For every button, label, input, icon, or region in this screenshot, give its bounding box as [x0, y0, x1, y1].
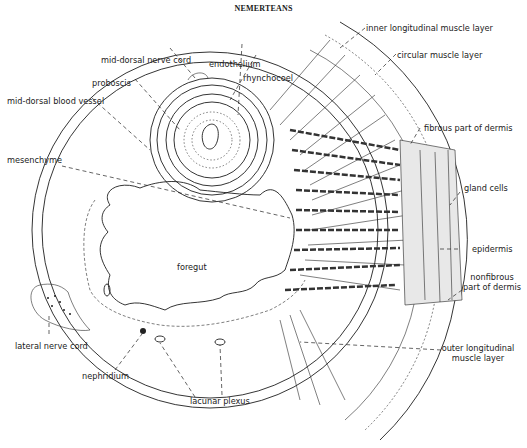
diagram-canvas: NEMERTEANS inner longitudinal muscle lay…: [0, 0, 527, 448]
label-lacunar-plexus: lacunar plexus: [190, 396, 250, 406]
rhynchocoel-outer: [150, 78, 274, 202]
mid-dorsal-nerve-cord-shape: [188, 73, 208, 80]
label-fibrous-part-of-dermis: fibrous part of dermis: [424, 123, 512, 133]
label-circular-muscle-layer: circular muscle layer: [397, 50, 482, 60]
label-rhynchocoel: rhynchocoel: [243, 73, 293, 83]
proboscis-wall-outer: [166, 94, 258, 186]
label-mid-dorsal-nerve-cord: mid-dorsal nerve cord: [101, 55, 191, 65]
label-inner-longitudinal-muscle-layer: inner longitudinal muscle layer: [366, 23, 493, 33]
lacunar-vessel-2: [215, 339, 225, 345]
label-nonfibrous-line2: part of dermis: [462, 282, 522, 292]
longitudinal-muscle-bundles: [285, 130, 400, 290]
lower-arc-1: [380, 300, 455, 440]
label-nonfibrous-part-of-dermis: nonfibrous part of dermis: [462, 272, 522, 292]
proboscis-wall-inner: [174, 102, 250, 178]
endothelium-ring: [184, 112, 240, 168]
label-outer-longitudinal-line1: outer longitudinal: [440, 343, 516, 353]
label-outer-longitudinal-line2: muscle layer: [440, 353, 516, 363]
foregut-outline: [100, 182, 294, 311]
proboscis-lumen: [202, 124, 218, 149]
label-gland-cells: gland cells: [464, 183, 508, 193]
label-mid-dorsal-blood-vessel: mid-dorsal blood vessel: [7, 96, 104, 106]
label-proboscis: proboscis: [92, 78, 131, 88]
label-endothelium: endothelium: [209, 59, 261, 69]
label-foregut: foregut: [177, 262, 207, 272]
label-mesenchyme: mesenchyme: [7, 155, 62, 165]
figure-title: NEMERTEANS: [0, 4, 527, 13]
label-nephridium: nephridium: [82, 371, 129, 381]
label-epidermis: epidermis: [472, 244, 512, 254]
label-outer-longitudinal-muscle-layer: outer longitudinal muscle layer: [440, 343, 516, 363]
label-lateral-nerve-cord: lateral nerve cord: [15, 341, 88, 351]
label-nonfibrous-line1: nonfibrous: [462, 272, 522, 282]
epidermis-band: [400, 140, 462, 305]
inner-body-wall: [42, 62, 378, 398]
nemertean-cross-section-drawing: [0, 0, 527, 448]
lacunar-vessel-1: [155, 336, 165, 342]
nephridium-shape: [140, 328, 146, 334]
muscle-layer-rays: [270, 40, 408, 405]
lateral-nerve-cord-dots: [47, 295, 71, 315]
rhynchocoel-inner: [157, 85, 267, 195]
